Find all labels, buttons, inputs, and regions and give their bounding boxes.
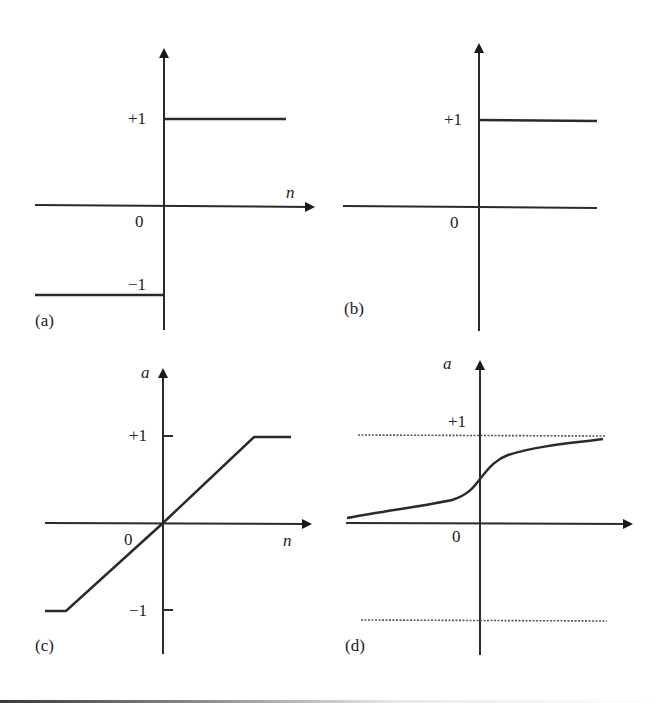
panel-b-origin-label: 0 [450, 214, 459, 231]
activation-functions-figure: +1 −1 0 n (a) +1 0 (b) a +1 −1 0 n (c) a… [0, 0, 660, 703]
panel-a-tick-plus1: +1 [128, 110, 146, 127]
panel-c-tick-minus1: −1 [129, 602, 147, 619]
panel-d-upper-asymptote [358, 435, 605, 436]
panel-c-origin-label: 0 [124, 531, 133, 548]
panel-d-y-axis-label: a [443, 355, 452, 372]
figure-canvas [0, 0, 660, 703]
panel-d-origin-label: 0 [452, 528, 461, 545]
panel-d-caption: (d) [345, 637, 365, 654]
panel-d-lower-asymptote [361, 620, 607, 621]
panel-b-caption: (b) [344, 300, 364, 317]
panel-b-upper-level [480, 120, 597, 121]
panel-a-caption: (a) [35, 312, 54, 329]
panel-a-x-axis [35, 205, 313, 207]
panel-d-tick-plus1: +1 [448, 413, 466, 430]
panel-b-x-axis [343, 206, 597, 208]
panel-a-tick-minus1: −1 [128, 276, 146, 293]
panel-d-sigmoid-curve [347, 439, 603, 518]
panel-b [343, 45, 597, 331]
panel-d [346, 362, 631, 655]
panel-c-tick-plus1: +1 [129, 427, 147, 444]
panel-c [45, 370, 310, 654]
panel-c-y-axis-label: a [141, 364, 150, 381]
panel-c-x-axis-label: n [283, 532, 292, 549]
panel-a-x-axis-label: n [286, 184, 295, 201]
panel-c-x-axis [45, 523, 310, 524]
panel-c-caption: (c) [35, 637, 54, 654]
panel-b-tick-plus1: +1 [444, 111, 462, 128]
panel-d-x-axis [346, 523, 631, 524]
panel-a [35, 50, 313, 330]
panel-a-origin-label: 0 [135, 213, 144, 230]
